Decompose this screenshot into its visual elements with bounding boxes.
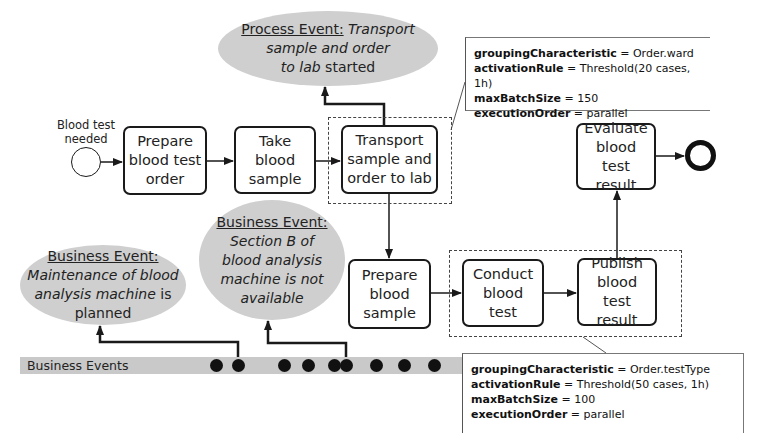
event-dot[interactable] — [302, 359, 315, 372]
event-dot[interactable] — [278, 359, 291, 372]
task-label: Evaluate blood test result — [581, 119, 651, 195]
annotation-row: maxBatchSize = 100 — [471, 392, 735, 407]
annotation-row: groupingCharacteristic = Order.testType — [471, 362, 735, 377]
task-prepare-blood-sample[interactable]: Prepare blood sample — [348, 259, 431, 329]
business-event-body: Maintenance of blood analysis machine — [27, 267, 178, 302]
annotation-row: executionOrder = parallel — [471, 407, 735, 422]
business-event-body: Section B of blood analysis machine is n… — [220, 232, 323, 308]
batch-annotation-lab: groupingCharacteristic = Order.testType … — [462, 353, 744, 433]
process-event-tail: started — [325, 59, 375, 75]
task-label: Transport sample and order to lab — [347, 131, 432, 188]
process-event-heading: Process Event: — [241, 21, 343, 37]
task-label: Take blood sample — [249, 132, 302, 189]
task-evaluate-blood-test-result[interactable]: Evaluate blood test result — [576, 123, 656, 190]
start-event-label-text: Blood test needed — [57, 118, 115, 146]
start-event-label: Blood test needed — [50, 118, 122, 146]
task-label: Prepare blood test order — [129, 132, 202, 189]
bpmn-diagram: Blood test needed Prepare blood test ord… — [0, 0, 760, 441]
business-event-heading: Business Event: — [216, 213, 327, 232]
event-dot[interactable] — [370, 359, 383, 372]
task-publish-blood-test-result[interactable]: Publish blood test result — [577, 258, 657, 326]
end-event-icon[interactable] — [685, 140, 716, 171]
task-prepare-blood-test-order[interactable]: Prepare blood test order — [123, 126, 207, 195]
event-dot[interactable] — [398, 359, 411, 372]
business-event-bubble-maintenance: Business Event: Maintenance of blood ana… — [20, 245, 186, 325]
task-label: Prepare blood sample — [362, 266, 418, 323]
start-event-icon[interactable] — [71, 147, 101, 177]
task-take-blood-sample[interactable]: Take blood sample — [234, 126, 316, 194]
task-transport-sample[interactable]: Transport sample and order to lab — [341, 125, 438, 194]
event-dot[interactable] — [340, 359, 353, 372]
task-conduct-blood-test[interactable]: Conduct blood test — [462, 259, 544, 327]
annotation-row: activationRule = Threshold(20 cases, 1h) — [474, 61, 702, 91]
process-event-bubble: Process Event: Transport sample and orde… — [218, 11, 438, 86]
business-events-lane-label: Business Events — [27, 358, 128, 374]
batch-annotation-transport: groupingCharacteristic = Order.ward acti… — [465, 37, 710, 111]
event-dot[interactable] — [428, 359, 441, 372]
annotation-row: activationRule = Threshold(50 cases, 1h) — [471, 377, 735, 392]
business-event-bubble-section-b: Business Event: Section B of blood analy… — [199, 200, 345, 320]
business-event-heading: Business Event: — [47, 247, 158, 266]
task-label: Publish blood test result — [582, 254, 652, 330]
annotation-row: maxBatchSize = 150 — [474, 91, 702, 106]
annotation-row: groupingCharacteristic = Order.ward — [474, 46, 702, 61]
event-dot[interactable] — [210, 359, 223, 372]
annotation-row: executionOrder = parallel — [474, 106, 702, 121]
event-dot[interactable] — [232, 359, 245, 372]
task-label: Conduct blood test — [467, 265, 539, 322]
